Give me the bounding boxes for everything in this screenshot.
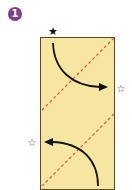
origami-step-diagram: 1 ★ ☆ ☆ xyxy=(0,0,132,190)
outline-star-left-icon: ☆ xyxy=(28,137,37,148)
paper-sheet xyxy=(41,38,115,190)
outline-star-right-icon: ☆ xyxy=(117,83,126,94)
fold-diagram: ★ ☆ ☆ xyxy=(0,0,132,190)
filled-star-icon: ★ xyxy=(48,25,58,38)
